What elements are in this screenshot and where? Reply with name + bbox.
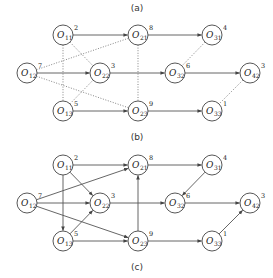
edge-O12-O23 bbox=[36, 206, 128, 237]
caption-b: (b) bbox=[131, 132, 144, 142]
node-weight: 7 bbox=[38, 62, 42, 70]
node-O22: O223 bbox=[90, 192, 115, 213]
node-O22: O223 bbox=[90, 62, 115, 83]
node-O31: O314 bbox=[202, 154, 227, 175]
caption-a: (a) bbox=[131, 3, 144, 13]
node-weight: 1 bbox=[223, 100, 227, 108]
node-O33: O331 bbox=[202, 100, 227, 121]
node-weight: 1 bbox=[223, 230, 227, 238]
node-O21: O218 bbox=[128, 154, 153, 175]
node-weight: 2 bbox=[74, 154, 78, 162]
node-O21: O218 bbox=[128, 24, 153, 45]
node-weight: 9 bbox=[149, 100, 153, 108]
node-O32: O326 bbox=[165, 62, 190, 83]
node-weight: 4 bbox=[223, 24, 227, 32]
node-weight: 9 bbox=[149, 230, 153, 238]
disjunctive-graph-figure: (a) (b) (c) O112O127O135O218O223O239O314… bbox=[0, 0, 273, 278]
caption-c: (c) bbox=[131, 262, 143, 272]
node-O11: O112 bbox=[53, 24, 78, 45]
node-weight: 2 bbox=[74, 24, 78, 32]
node-weight: 5 bbox=[74, 230, 78, 238]
node-O32: O326 bbox=[165, 192, 190, 213]
node-weight: 3 bbox=[111, 62, 115, 70]
node-O33: O331 bbox=[202, 230, 227, 251]
node-O12: O127 bbox=[17, 192, 42, 213]
node-weight: 3 bbox=[111, 192, 115, 200]
node-O13: O135 bbox=[53, 100, 78, 121]
node-weight: 8 bbox=[149, 154, 153, 162]
node-O42: O423 bbox=[240, 62, 265, 83]
edge-O12-O23 bbox=[36, 76, 128, 107]
node-weight: 3 bbox=[261, 62, 265, 70]
node-O12: O127 bbox=[17, 62, 42, 83]
node-O23: O239 bbox=[128, 230, 153, 251]
edge-O11-O22 bbox=[70, 172, 93, 195]
node-weight: 6 bbox=[186, 192, 190, 200]
node-weight: 4 bbox=[223, 154, 227, 162]
node-weight: 5 bbox=[74, 100, 78, 108]
node-O11: O112 bbox=[53, 154, 78, 175]
node-weight: 7 bbox=[38, 192, 42, 200]
node-weight: 8 bbox=[149, 24, 153, 32]
graph-b: O112O127O135O218O223O239O314O326O331O423 bbox=[17, 24, 265, 121]
node-O42: O423 bbox=[240, 192, 265, 213]
node-O31: O314 bbox=[202, 24, 227, 45]
node-weight: 6 bbox=[186, 62, 190, 70]
node-O13: O135 bbox=[53, 230, 78, 251]
graph-c: O112O127O135O218O223O239O314O326O331O423 bbox=[17, 154, 265, 251]
node-O23: O239 bbox=[128, 100, 153, 121]
node-weight: 3 bbox=[261, 192, 265, 200]
edge-O11-O22 bbox=[70, 42, 93, 65]
